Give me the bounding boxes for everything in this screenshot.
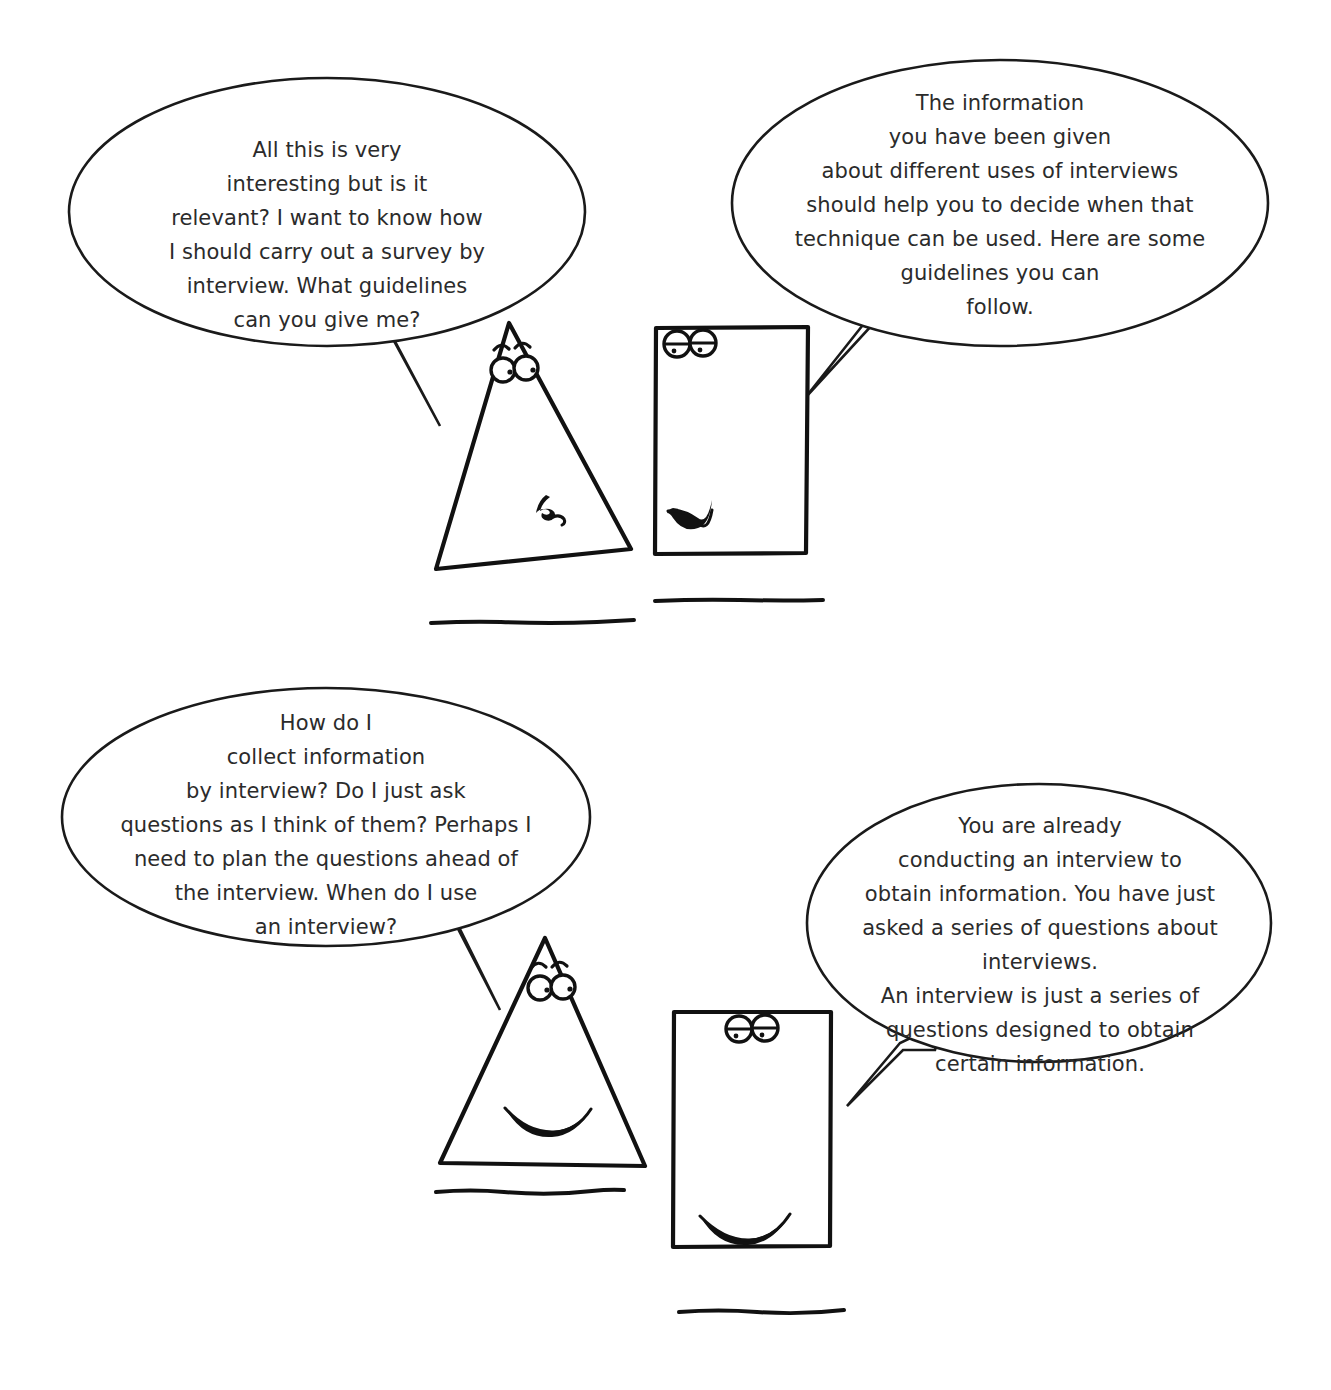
ground-line-top-left [431, 620, 634, 623]
pupil-left-bottom-triangle [544, 987, 549, 992]
speech-bubble-top-left [69, 78, 585, 346]
square-body-bottom [673, 1012, 831, 1247]
character-triangle-bottom [440, 938, 645, 1166]
character-square-top [655, 327, 808, 554]
pupil-left-bottom-square [734, 1034, 739, 1039]
pupil-left-top-square [672, 349, 677, 354]
character-square-bottom [673, 1012, 831, 1247]
speech-bubble-bottom-right [807, 784, 1271, 1062]
cartoon-canvas: All this is very interesting but is it r… [0, 0, 1331, 1390]
pupil-right-top-triangle [530, 367, 535, 372]
ground-line-bottom-right [679, 1310, 844, 1313]
pupil-left-top-triangle [507, 369, 512, 374]
pupil-right-bottom-triangle [567, 986, 572, 991]
scene-drawing [0, 0, 1331, 1390]
speech-bubble-top-right [732, 60, 1268, 346]
pupil-right-bottom-square [760, 1033, 765, 1038]
ground-line-top-right [655, 600, 823, 601]
character-triangle-top [436, 323, 631, 569]
pupil-right-top-square [698, 348, 703, 353]
speech-bubble-bottom-left [62, 688, 590, 946]
ground-line-bottom-left [436, 1190, 624, 1194]
